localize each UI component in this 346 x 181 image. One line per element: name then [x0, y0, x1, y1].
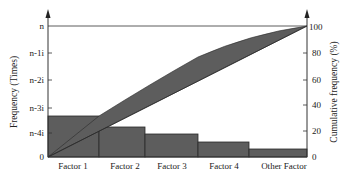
ytick-1: n-4i — [30, 128, 45, 138]
xtick-factor-4: Factor 4 — [209, 161, 239, 171]
ytick-2: n-3i — [30, 103, 45, 113]
ytick-4: n-1i — [30, 48, 45, 58]
ytick-3: n-2i — [30, 75, 45, 85]
y2tick-1: 20 — [312, 126, 322, 136]
y2tick-0: 0 — [312, 152, 317, 162]
bar-factor-4 — [198, 142, 249, 157]
xtick-other-factor: Other Factor — [261, 161, 307, 171]
ytick-0: 0 — [40, 152, 45, 162]
left-axis-arrow-icon — [46, 9, 51, 18]
y2tick-4: 80 — [312, 48, 322, 58]
y2tick-5: 100 — [309, 22, 323, 32]
xtick-factor-2: Factor 2 — [110, 161, 140, 171]
bar-factor-3 — [145, 134, 198, 157]
x-tick-labels: Factor 1 Factor 2 Factor 3 Factor 4 Othe… — [58, 161, 307, 171]
ytick-5: n — [40, 21, 45, 31]
bar-factor-2 — [99, 127, 145, 157]
y2-axis-title: Cumulative frequency (%) — [329, 41, 340, 142]
bar-other-factor — [249, 149, 307, 157]
y2tick-3: 60 — [312, 75, 322, 85]
pareto-chart: 0 n-4i n-3i n-2i n-1i n 0 20 40 60 80 10… — [0, 0, 346, 181]
y2tick-2: 40 — [312, 100, 322, 110]
xtick-factor-3: Factor 3 — [157, 161, 187, 171]
right-tick-labels: 0 20 40 60 80 100 — [309, 22, 323, 162]
left-tick-labels: 0 n-4i n-3i n-2i n-1i n — [30, 21, 45, 162]
right-ticks — [303, 53, 307, 131]
y-axis-title: Frequency (Times) — [9, 56, 20, 128]
xtick-factor-1: Factor 1 — [58, 161, 88, 171]
right-axis-arrow-icon — [305, 9, 310, 18]
